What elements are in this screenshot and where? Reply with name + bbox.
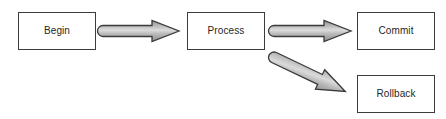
node-process-label: Process [208, 26, 245, 36]
node-process[interactable]: Process [187, 12, 265, 50]
arrow-begin-to-process[interactable] [98, 21, 179, 42]
node-commit[interactable]: Commit [357, 12, 435, 50]
arrow-process-to-commit[interactable] [269, 21, 352, 42]
flow-diagram-canvas: Begin Process Commit Rollback [0, 0, 446, 119]
node-rollback[interactable]: Rollback [357, 75, 435, 113]
arrow-process-to-rollback[interactable] [264, 45, 350, 101]
node-commit-label: Commit [378, 26, 413, 36]
node-begin[interactable]: Begin [18, 12, 96, 50]
node-begin-label: Begin [44, 26, 70, 36]
node-rollback-label: Rollback [376, 89, 415, 99]
